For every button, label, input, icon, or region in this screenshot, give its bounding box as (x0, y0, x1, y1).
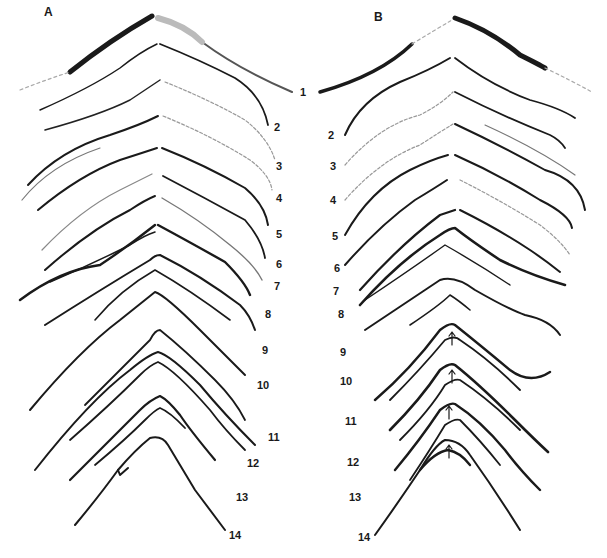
panel-b-segment-10: 10 (340, 376, 352, 387)
panel-b-segment-5: 5 (332, 231, 338, 242)
panel-a-segment-13: 13 (236, 492, 248, 503)
panel-a-segment-4: 4 (276, 193, 282, 204)
panel-a-segment-8: 8 (265, 309, 271, 320)
panel-b-segment-13: 13 (349, 492, 361, 503)
panel-b-label: B (374, 11, 383, 23)
panel-b-segment-11: 11 (345, 416, 357, 427)
panel-a-segment-3: 3 (276, 161, 282, 172)
panel-a-segment-6: 6 (276, 259, 282, 270)
panel-b-segment-12: 12 (347, 457, 359, 468)
panel-b-drawings (320, 18, 592, 535)
panel-a-drawings (20, 16, 292, 530)
panel-b-segment-2: 2 (328, 130, 334, 141)
panel-b-segment-3: 3 (330, 161, 336, 172)
figure: A 1 2 3 4 5 6 7 8 9 10 11 12 13 14 B 1 2… (0, 0, 607, 558)
panel-b-segment-4: 4 (330, 195, 336, 206)
panel-a-segment-14: 14 (229, 530, 241, 541)
panel-a-label: A (44, 6, 53, 18)
panel-a-segment-12: 12 (247, 458, 259, 469)
panel-a-segment-10: 10 (257, 380, 269, 391)
panel-a-segment-1: 1 (300, 87, 306, 98)
panel-b-segment-8: 8 (338, 309, 344, 320)
panel-b-segment-6: 6 (334, 263, 340, 274)
panel-b-segment-9: 9 (340, 347, 346, 358)
panel-b-segment-14: 14 (358, 532, 370, 543)
panel-b-segment-7: 7 (333, 286, 339, 297)
panel-a-segment-9: 9 (262, 345, 268, 356)
panel-a-segment-11: 11 (268, 432, 280, 443)
chevron-drawings (0, 0, 607, 558)
panel-a-segment-2: 2 (274, 122, 280, 133)
panel-a-segment-7: 7 (274, 281, 280, 292)
panel-a-segment-5: 5 (276, 229, 282, 240)
